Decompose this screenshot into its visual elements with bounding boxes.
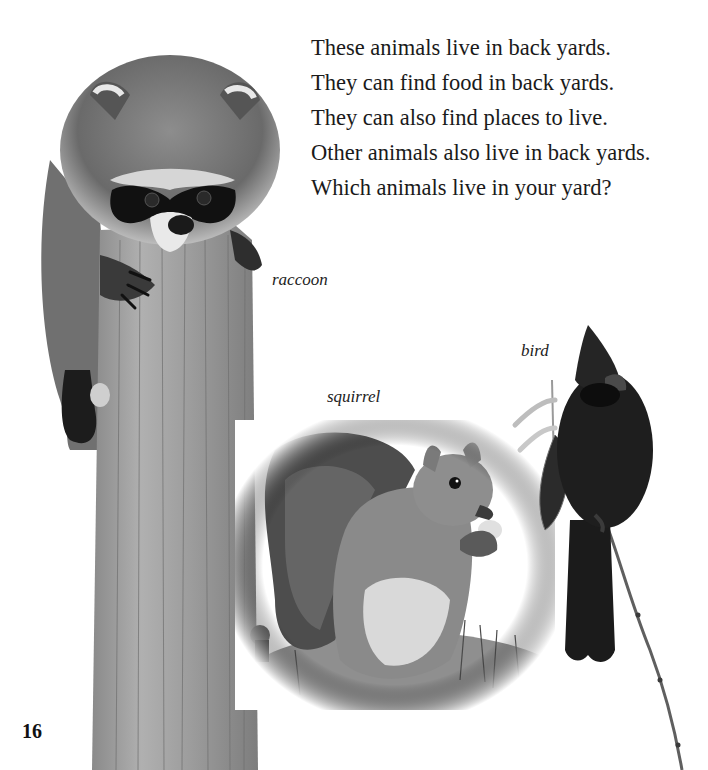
body-line: Other animals also live in back yards. — [311, 135, 706, 170]
body-line: These animals live in back yards. — [311, 30, 706, 65]
body-line: They can find food in back yards. — [311, 65, 706, 100]
bird-photo — [510, 320, 708, 770]
book-page: These animals live in back yards. They c… — [0, 0, 708, 770]
bird-illustration — [510, 320, 708, 770]
squirrel-photo — [235, 420, 555, 710]
squirrel-illustration — [235, 420, 555, 710]
body-text: These animals live in back yards. They c… — [311, 30, 706, 205]
caption-bird: bird — [521, 341, 549, 361]
caption-squirrel: squirrel — [327, 387, 380, 407]
body-line: Which animals live in your yard? — [311, 170, 706, 205]
caption-raccoon: raccoon — [272, 270, 328, 290]
body-line: They can also find places to live. — [311, 100, 706, 135]
page-number: 16 — [22, 720, 42, 743]
